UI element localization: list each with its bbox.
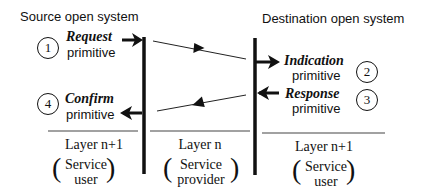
response-label: Response: [285, 87, 339, 101]
confirm-label: Confirm: [65, 92, 114, 106]
response-arrow-icon: [257, 86, 279, 100]
service-primitives-diagram: Source open system Destination open syst…: [0, 0, 425, 196]
destination-role-close-paren: ): [346, 156, 355, 184]
provider-role-line1: Service: [170, 157, 232, 172]
source-layer-label: Layer n+1: [50, 138, 138, 152]
indication-label: Indication: [284, 54, 344, 68]
step-2-badge: 2: [356, 61, 378, 83]
step-4-badge: 4: [37, 93, 59, 115]
provider-role: Service provider: [170, 157, 232, 187]
source-system-title: Source open system: [20, 10, 139, 23]
response-primitive-word: primitive: [292, 102, 340, 115]
indication-arrow-icon: [256, 55, 280, 69]
request-arrow-icon: [122, 33, 143, 47]
request-label: Request: [66, 30, 112, 44]
step-1-badge: 1: [37, 37, 59, 59]
confirm-arrow-icon: [120, 106, 142, 120]
destination-layer-label: Layer n+1: [262, 140, 386, 154]
provider-role-close-paren: ): [230, 154, 239, 182]
provider-layer-label: Layer n: [150, 138, 250, 152]
response-to-confirm-line: [157, 95, 246, 111]
indication-primitive-word: primitive: [292, 69, 340, 82]
source-role-close-paren: ): [106, 154, 115, 182]
destination-system-title: Destination open system: [262, 12, 404, 25]
request-primitive-word: primitive: [67, 46, 115, 59]
confirm-primitive-word: primitive: [66, 108, 114, 121]
step-3-badge: 3: [356, 89, 378, 111]
provider-role-line2: provider: [170, 172, 232, 187]
request-to-indication-line: [153, 41, 246, 59]
